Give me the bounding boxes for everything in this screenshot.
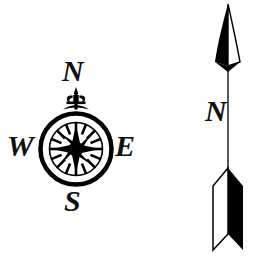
north-arrow-fletch-right: [228, 168, 243, 250]
north-arrow-head-left: [215, 4, 228, 66]
north-arrow-head-right: [228, 4, 240, 66]
north-arrow-fletch-left: [213, 168, 228, 250]
image-canvas: N W E S N: [0, 0, 261, 258]
north-arrow-graphic: [213, 4, 243, 250]
compass-rose-group: [41, 87, 112, 185]
compass-label-south: S: [64, 186, 81, 216]
fleur-de-lis-ornament: [63, 87, 89, 110]
compass-label-north: N: [62, 56, 84, 86]
compass-label-west: W: [7, 131, 34, 161]
north-arrow-label: N: [205, 96, 227, 126]
compass-label-east: E: [115, 131, 135, 161]
